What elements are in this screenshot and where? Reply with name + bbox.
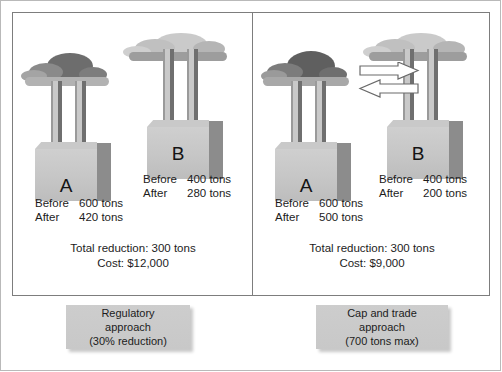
- smoke-plume-light-icon: [121, 33, 237, 67]
- permit-arrow-right-icon: [360, 62, 418, 79]
- caption-regulatory-approach[interactable]: Regulatory approach (30% reduction): [66, 305, 190, 349]
- factory-label-b: B: [147, 143, 209, 165]
- smoke-plume-dark-icon: [21, 53, 117, 91]
- caption-line-1: Cap and trade: [345, 306, 418, 320]
- comparison-panel-container: A Before600 tons After420 tons: [12, 12, 490, 296]
- building-side-face: [209, 121, 223, 179]
- panel-cap-trade-totals: Total reduction: 300 tons Cost: $9,000: [253, 241, 491, 271]
- caption-line-2: approach: [345, 320, 418, 334]
- building-roof: [387, 120, 449, 127]
- factory-b-before-label: Before: [143, 173, 187, 187]
- factory-a-before-label: Before: [275, 197, 319, 211]
- factory-a-before-value: 600 tons: [79, 197, 123, 211]
- figure-canvas: A Before600 tons After420 tons: [0, 0, 502, 372]
- total-reduction-text: Total reduction: 300 tons: [253, 241, 491, 256]
- factory-a-before-value: 600 tons: [319, 197, 363, 211]
- building-roof: [147, 120, 209, 127]
- total-reduction-text: Total reduction: 300 tons: [13, 241, 253, 256]
- panel-regulatory-totals: Total reduction: 300 tons Cost: $12,000: [13, 241, 253, 271]
- factory-a-after-label: After: [275, 211, 319, 225]
- permit-trade-arrows: [358, 62, 420, 100]
- caption-cap-and-trade-approach[interactable]: Cap and trade approach (700 tons max): [316, 305, 448, 349]
- factory-b-regulatory: B: [139, 29, 235, 179]
- factory-label-a: A: [275, 175, 337, 197]
- caption-line-1: Regulatory: [89, 306, 167, 320]
- factory-b-readings: Before400 tons After200 tons: [379, 173, 467, 200]
- factory-b-after-value: 200 tons: [423, 187, 467, 201]
- factory-a-regulatory: A: [27, 51, 123, 201]
- building-side-face: [97, 143, 111, 201]
- factory-b-after-label: After: [379, 187, 423, 201]
- panel-cap-and-trade: A Before600 tons After500 tons: [253, 13, 491, 297]
- caption-line-2: approach: [89, 320, 167, 334]
- building-side-face: [337, 143, 351, 201]
- factory-a-after-value: 500 tons: [319, 211, 363, 225]
- permit-arrow-left-icon: [360, 80, 418, 97]
- building-roof: [35, 142, 97, 149]
- factory-b-readings: Before400 tons After280 tons: [143, 173, 231, 200]
- factory-b-cap-trade: B: [379, 29, 475, 179]
- caption-line-3: (700 tons max): [345, 334, 418, 348]
- building-roof: [275, 142, 337, 149]
- factory-a-before-label: Before: [35, 197, 79, 211]
- factory-label-a: A: [35, 175, 97, 197]
- total-cost-text: Cost: $9,000: [253, 256, 491, 271]
- panel-divider: [252, 12, 253, 296]
- factory-b-before-value: 400 tons: [187, 173, 231, 187]
- panel-regulatory: A Before600 tons After420 tons: [13, 13, 253, 297]
- factory-a-cap-trade: A: [267, 51, 363, 201]
- total-cost-text: Cost: $12,000: [13, 256, 253, 271]
- factory-a-after-label: After: [35, 211, 79, 225]
- factory-b-after-label: After: [143, 187, 187, 201]
- factory-b-after-value: 280 tons: [187, 187, 231, 201]
- factory-label-b: B: [387, 143, 449, 165]
- factory-b-before-value: 400 tons: [423, 173, 467, 187]
- factory-a-readings: Before600 tons After500 tons: [275, 197, 363, 224]
- factory-b-before-label: Before: [379, 173, 423, 187]
- factory-a-readings: Before600 tons After420 tons: [35, 197, 123, 224]
- smoke-plume-darker-icon: [261, 51, 357, 91]
- caption-line-3: (30% reduction): [89, 334, 167, 348]
- building-side-face: [449, 121, 463, 179]
- factory-a-after-value: 420 tons: [79, 211, 123, 225]
